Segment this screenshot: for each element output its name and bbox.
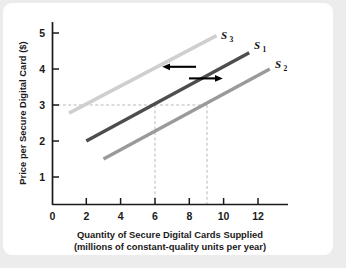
y-axis-title: Price per Secure Digital Card ($): [17, 41, 28, 184]
curve-label-s3-subscript: 3: [230, 35, 234, 44]
supply-curves: [69, 36, 270, 159]
curve-label-s2: S 2: [275, 58, 288, 73]
y-tick-label-3: 3: [39, 99, 45, 111]
supply-curve-s3-line: [69, 36, 217, 114]
y-axis-tick-labels: 5 4 3 2 1: [39, 27, 45, 183]
x-axis-title-line1: Quantity of Secure Digital Cards Supplie…: [77, 229, 263, 240]
x-axis-ticks: [86, 198, 258, 205]
y-tick-label-1: 1: [39, 171, 45, 183]
shift-left-arrow: [162, 63, 196, 70]
curve-labels: S 3 S 1 S 2: [221, 29, 288, 73]
chart-svg: 5 4 3 2 1 0 2 4 6 8 10 12 S 3 S 1: [0, 0, 346, 268]
reference-lines: [52, 105, 207, 205]
curve-label-s2-subscript: 2: [284, 64, 288, 73]
x-tick-label-10: 10: [218, 210, 230, 222]
x-tick-label-12: 12: [252, 210, 264, 222]
x-axis-tick-labels: 0 2 4 6 8 10 12: [50, 210, 264, 222]
curve-label-s1: S 1: [254, 39, 267, 54]
x-tick-label-8: 8: [186, 210, 192, 222]
x-axis-title-line2: (millions of constant-quality units per …: [74, 241, 266, 252]
y-tick-label-4: 4: [39, 63, 45, 75]
curve-label-s1-text: S: [254, 39, 260, 51]
axes: [53, 22, 289, 205]
curve-label-s1-subscript: 1: [263, 45, 267, 54]
y-tick-label-5: 5: [39, 27, 45, 39]
x-tick-label-6: 6: [152, 210, 158, 222]
curve-label-s3-text: S: [221, 29, 227, 41]
y-axis-ticks: [53, 33, 60, 177]
x-tick-label-0: 0: [50, 210, 56, 222]
curve-label-s2-text: S: [275, 58, 281, 70]
x-tick-label-4: 4: [118, 210, 124, 222]
curve-label-s3: S 3: [221, 29, 234, 44]
x-tick-label-2: 2: [83, 210, 89, 222]
y-tick-label-2: 2: [39, 135, 45, 147]
supply-curve-chart: 5 4 3 2 1 0 2 4 6 8 10 12 S 3 S 1: [0, 0, 346, 268]
